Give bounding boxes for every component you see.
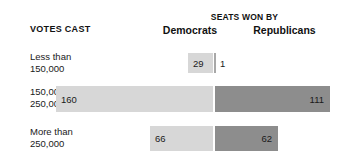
row-label-line1: More than	[30, 126, 73, 138]
row-label: Less than 150,000	[30, 51, 71, 74]
row-label-line1: Less than	[30, 51, 71, 63]
bar-democrats: 160	[56, 86, 213, 112]
bar-value-democrats: 29	[193, 59, 204, 69]
bar-value-democrats: 66	[155, 134, 166, 144]
seats-won-by-header: SEATS WON BY	[150, 12, 339, 22]
bar-republicans	[214, 53, 216, 73]
bar-value-republicans: 1	[220, 59, 225, 69]
bar-value-republicans: 111	[310, 95, 324, 105]
bar-value-democrats: 160	[61, 95, 77, 105]
column-header-row: Democrats Republicans	[150, 24, 339, 38]
row-label-line2: 150,000	[30, 63, 71, 75]
bar-democrats: 29	[188, 53, 213, 73]
bar-democrats: 66	[150, 126, 213, 151]
bar-republicans: 111	[215, 86, 330, 112]
chart-row: 150,000– 250,000 160 111	[0, 86, 339, 114]
column-header-democrats: Democrats	[150, 24, 230, 36]
diverging-bar-chart: SEATS WON BY VOTES CAST Democrats Republ…	[0, 0, 339, 165]
bar-value-republicans: 62	[261, 134, 272, 144]
votes-cast-header: VOTES CAST	[30, 24, 91, 34]
chart-row: More than 250,000 66 62	[0, 126, 339, 153]
chart-row: Less than 150,000 29 1	[0, 51, 339, 77]
bar-republicans: 62	[215, 126, 278, 151]
row-label: More than 250,000	[30, 126, 73, 149]
row-label-line2: 250,000	[30, 138, 73, 150]
column-header-republicans: Republicans	[230, 24, 339, 36]
